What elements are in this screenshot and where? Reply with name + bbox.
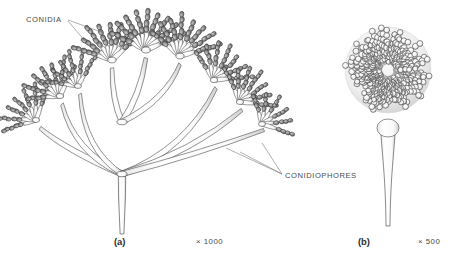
conidium [0,117,3,121]
metula [176,53,184,59]
conidium [39,79,44,83]
label-conidiophores: CONIDIOPHORES [285,171,357,180]
conidium [413,66,418,71]
conidium [384,27,390,33]
conidium [179,11,184,17]
conidium [378,25,384,31]
conidium [354,41,360,47]
conidium [80,54,84,59]
conidium [33,82,37,87]
conidium [179,28,184,35]
branch-node [117,119,127,125]
conidium [350,55,356,61]
conidium [426,73,432,79]
metula [210,77,218,82]
panel-a-caption: (a) [114,236,125,247]
metula [56,93,64,98]
conidium [398,67,403,72]
label-conidia: CONIDIA [26,15,62,24]
conidium [213,55,218,61]
conidium [417,41,423,47]
conidium [146,8,151,14]
conidium [216,40,221,46]
conidium [62,55,66,61]
conidium [44,79,49,83]
conidium [407,67,412,72]
conidium [264,92,268,98]
conidium [26,97,32,101]
conidium [288,118,293,122]
conidium [353,48,359,54]
conidium [420,61,425,66]
panel-b-magnification: × 500 [418,237,440,246]
conidium [384,32,390,38]
conidium [236,68,240,74]
conidium [369,28,375,34]
conidium [355,79,360,84]
conidium [236,78,241,84]
conidium [49,80,55,85]
fungal-illustration-svg: CONIDIACONIDIOPHORES (a) × 1000 (b) × 50… [0,0,463,262]
panel-b-caption: (b) [358,236,370,247]
vesicle [377,119,399,137]
conidium [58,81,64,86]
conidium [35,96,41,101]
conidium [397,30,403,36]
conidium [108,22,113,28]
metula [258,122,265,127]
conidium [362,91,367,96]
conidium [403,104,409,110]
figure-root: CONIDIACONIDIOPHORES (a) × 1000 (b) × 50… [0,0,463,262]
conidium [273,120,279,125]
metula [236,99,243,104]
conidium [421,74,426,79]
conidium [412,51,418,57]
conidium [405,39,411,45]
metula [108,57,116,63]
conidium [79,59,83,65]
metula [74,84,81,89]
conidium [363,45,368,50]
branch-node [117,171,127,177]
conidium [424,56,430,62]
conidium [343,62,349,68]
metula [142,47,151,53]
conidium [144,20,149,27]
conidium [369,104,375,110]
conidium [11,117,17,121]
metula [32,118,39,123]
panel-a-magnification: × 1000 [196,237,223,246]
conidium [416,93,422,99]
